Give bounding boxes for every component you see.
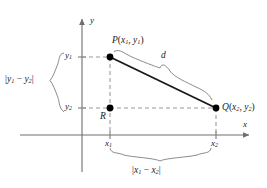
point-q-marker — [213, 105, 220, 112]
tick-label-y2: y2 — [65, 102, 72, 112]
point-r-marker — [107, 105, 114, 112]
tick-label-x1: x1 — [105, 139, 112, 149]
distance-label-d: d — [161, 51, 166, 61]
brace-vertical-y — [50, 53, 64, 112]
brace-label-delta-y: |y1 − y2| — [5, 75, 34, 85]
diagram-canvas — [0, 0, 267, 188]
x-axis-label: x — [243, 120, 247, 129]
point-p-marker — [107, 54, 114, 61]
brace-label-delta-x: |x1 − x2| — [132, 166, 161, 176]
point-q-letter: Q — [222, 102, 229, 112]
point-q-label: Q(x2, y2) — [222, 103, 255, 113]
point-p-label: P(x1, y1) — [112, 36, 144, 46]
point-r-label: R — [100, 112, 106, 122]
tick-label-x2: x2 — [211, 139, 218, 149]
brace-horizontal-x — [110, 148, 211, 161]
y-axis-label: y — [90, 16, 94, 25]
distance-formula-figure: y x P(x1, y1) Q(x2, y2) R d y1 y2 x1 x2 … — [0, 0, 267, 188]
tick-label-y1: y1 — [65, 51, 72, 61]
